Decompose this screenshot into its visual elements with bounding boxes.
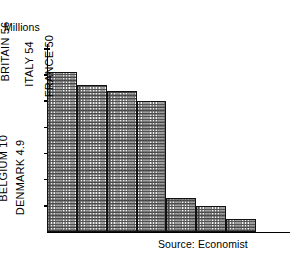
- bar-label-denmark: DENMARK 4.9: [15, 140, 230, 216]
- bar-label-france: FRANCE 50: [43, 35, 140, 97]
- bar-chart: Millions 70605040302010 GERMANY 61BRITAI…: [0, 0, 298, 257]
- bar-denmark: [226, 219, 256, 232]
- source-note: Source: Economist: [158, 238, 248, 250]
